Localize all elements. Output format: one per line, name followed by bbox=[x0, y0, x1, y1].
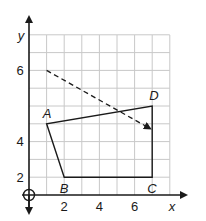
y-axis-label: y bbox=[17, 28, 26, 43]
vertex-label-c: C bbox=[147, 181, 157, 196]
y-tick-label: 2 bbox=[16, 170, 23, 185]
x-tick-label: 4 bbox=[96, 199, 103, 214]
y-tick-label: 4 bbox=[16, 134, 23, 149]
x-tick-label: 2 bbox=[61, 199, 68, 214]
vertex-label-d: D bbox=[149, 88, 158, 103]
x-tick-label: 6 bbox=[131, 199, 138, 214]
y-tick-label: 6 bbox=[16, 63, 23, 78]
coordinate-grid-diagram: 2 4 6 2 4 6 x y A B C D bbox=[0, 0, 206, 221]
vertex-label-a: A bbox=[42, 106, 52, 121]
vertex-label-b: B bbox=[60, 181, 69, 196]
x-axis-label: x bbox=[168, 199, 176, 214]
